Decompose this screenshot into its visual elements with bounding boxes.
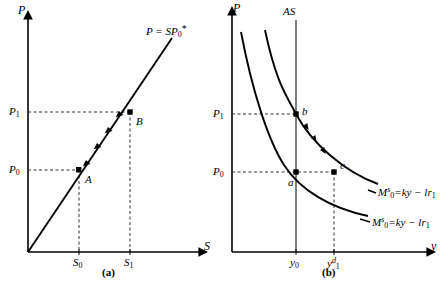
panel-b-direction-arrows <box>303 123 326 154</box>
panel-a-ytick-label-p0: P0 <box>9 164 20 177</box>
panel-b-point-label-b: b <box>302 106 308 117</box>
panel-b-ytick-label-p1: P1 <box>213 108 224 121</box>
panel-b-ytick-p1-sub: 1 <box>220 112 224 121</box>
panel-b-curve-label-lower: Ms0=ky − lr1 <box>372 216 430 230</box>
panel-a-point-B-marker <box>127 109 132 114</box>
panel-a-ytick-label-p1: P1 <box>9 106 20 119</box>
panel-a-point-A-marker <box>76 167 81 172</box>
panel-b-point-a-marker <box>293 169 298 174</box>
panel-b-curve-lower-m: M <box>372 216 381 228</box>
panel-a-x-axis-label: S <box>204 240 210 252</box>
panel-b-curve-upper-rhs: ky − lr <box>402 186 432 198</box>
economics-two-panel-figure: P S P = SP0* P1 P0 S0 S1 A B (a) P y AS … <box>0 0 448 285</box>
panel-b-ytick-p0-sub: 0 <box>220 170 224 179</box>
panel-b-point-b-marker <box>293 111 298 116</box>
panel-a-curve-label-star: * <box>182 23 187 34</box>
panel-b-xtick-y0-sub: 0 <box>295 261 299 270</box>
panel-a-point-label-A: A <box>85 174 92 185</box>
panel-a-curve-label-rhs: SP <box>165 25 177 37</box>
panel-a-y-axis-label: P <box>18 4 25 16</box>
panel-b-curve-lower-rhs-sub: 1 <box>426 221 430 230</box>
figure-canvas <box>0 0 448 285</box>
panel-b-curve-lower <box>241 32 368 216</box>
panel-a-supply-line <box>28 38 172 252</box>
panel-b-curve-label-upper: Ms0=ky − lr1 <box>378 186 436 200</box>
panel-b-ytick-label-p0: P0 <box>213 166 224 179</box>
panel-a-group <box>28 18 200 255</box>
panel-a-curve-label-eq: = <box>155 25 162 37</box>
panel-a-xtick-label-s1: S1 <box>124 257 133 270</box>
panel-b-curve-label-leader-lower <box>360 219 370 222</box>
panel-b-curve-upper-m: M <box>378 186 387 198</box>
panel-b-curve-lower-rhs: ky − lr <box>396 216 426 228</box>
panel-b-y-axis-label: P <box>233 2 240 14</box>
panel-a-ytick-p0-main: P <box>9 163 16 175</box>
panel-a-caption: (a) <box>102 266 115 278</box>
panel-a-ytick-p0-sub: 0 <box>16 168 20 177</box>
panel-b-caption: (b) <box>322 266 335 278</box>
panel-b-as-label: AS <box>283 6 295 17</box>
panel-a-curve-label: P = SP0* <box>146 24 187 39</box>
panel-a-xtick-label-s0: S0 <box>73 257 82 270</box>
panel-b-point-label-a: a <box>288 177 294 188</box>
panel-b-point-label-c: c <box>340 160 345 171</box>
panel-a-point-label-B: B <box>136 116 143 127</box>
panel-a-ytick-p1-sub: 1 <box>16 110 20 119</box>
panel-b-ytick-p1-main: P <box>213 107 220 119</box>
panel-a-ytick-p1-main: P <box>9 105 16 117</box>
panel-a-curve-label-lhs: P <box>146 25 153 37</box>
panel-b-ytick-p0-main: P <box>213 165 220 177</box>
panel-b-curve-lower-eq: = <box>388 216 395 228</box>
panel-b-xtick-y1d-sub: 1 <box>336 262 340 271</box>
panel-b-x-axis-label: y <box>431 240 436 252</box>
panel-b-curve-upper-rhs-sub: 1 <box>432 191 436 200</box>
panel-b-curve-upper-eq: = <box>394 186 401 198</box>
panel-a-xtick-s1-sub: 1 <box>130 261 134 270</box>
panel-b-point-c-marker <box>331 169 336 174</box>
panel-a-xtick-s0-sub: 0 <box>79 261 83 270</box>
panel-b-curve-label-leader-upper <box>368 190 376 193</box>
panel-b-xtick-label-y0: y0 <box>290 257 299 270</box>
